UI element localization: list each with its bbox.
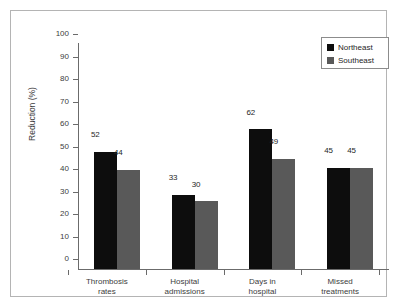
legend-swatch-southeast — [327, 57, 334, 64]
x-axis-category-label: Missed treatments — [301, 277, 379, 297]
y-axis-tick-label-text: 70 — [29, 98, 69, 106]
y-axis-tick-label-text: 10 — [29, 233, 69, 241]
legend-entry-northeast: Northeast — [327, 42, 388, 53]
y-axis-tick-label-text: 60 — [29, 120, 69, 128]
bar-0-0 — [94, 152, 117, 269]
y-axis-tick-label: 70 — [29, 98, 69, 106]
y-axis-tick-label: 30 — [29, 188, 69, 196]
bar-1-2 — [272, 159, 295, 269]
y-axis-tick-label: 50 — [29, 143, 69, 151]
legend-label: Northeast — [338, 44, 373, 52]
x-axis-tick — [301, 270, 302, 275]
x-axis-tick — [146, 270, 147, 275]
legend-entry-southeast: Southeast — [327, 55, 388, 66]
y-axis-tick-label: 90 — [29, 53, 69, 61]
y-axis-tick — [73, 34, 78, 35]
x-axis-tick — [224, 270, 225, 275]
bar-value-label: 62 — [233, 109, 268, 117]
legend-swatch-northeast — [327, 44, 334, 51]
y-axis-tick-label-text: 90 — [29, 53, 69, 61]
y-axis-tick-label-text: 80 — [29, 75, 69, 83]
y-axis-title: Reduction (%) — [27, 74, 37, 154]
y-axis-tick-label-text: 50 — [29, 143, 69, 151]
bar-0-2 — [249, 129, 272, 269]
bar-1-0 — [117, 170, 140, 269]
bar-value-label: 45 — [334, 147, 369, 155]
bar-value-label: 44 — [101, 149, 136, 157]
y-axis-tick-label: 10 — [29, 233, 69, 241]
x-axis-category-label: Days in hospital — [224, 277, 302, 297]
x-axis-category-label: Thrombosis rates — [68, 277, 146, 297]
x-axis-tick — [379, 270, 380, 275]
bar-value-label: 52 — [78, 131, 113, 139]
y-axis-tick-label: 20 — [29, 210, 69, 218]
bar-value-label: 30 — [179, 181, 214, 189]
x-axis-line — [78, 269, 389, 270]
bar-value-label: 49 — [256, 138, 291, 146]
y-axis-tick-label: 60 — [29, 120, 69, 128]
y-axis-tick-label-text: 0 — [29, 255, 69, 263]
chart-legend: NortheastSoutheast — [321, 37, 389, 69]
bar-1-1 — [195, 201, 218, 269]
y-axis-tick-label: 40 — [29, 165, 69, 173]
y-axis-tick-label-text: 20 — [29, 210, 69, 218]
chart-screenshot: Reduction (%) 1009080706050403020100 524… — [0, 0, 398, 308]
bar-1-3 — [350, 168, 373, 269]
y-axis-tick-label-text: 40 — [29, 165, 69, 173]
y-axis-tick-label: 100 — [29, 30, 69, 38]
y-axis-tick-label: 80 — [29, 75, 69, 83]
y-axis-tick-label: 0 — [29, 255, 69, 263]
bar-0-1 — [172, 195, 195, 269]
legend-label: Southeast — [338, 57, 374, 65]
x-axis-category-label: Hospital admissions — [146, 277, 224, 297]
y-axis-tick-label-text: 30 — [29, 188, 69, 196]
figure-frame: Reduction (%) 1009080706050403020100 524… — [10, 10, 387, 297]
x-axis-tick — [68, 270, 69, 275]
y-axis-tick-label-text: 100 — [29, 30, 69, 38]
bar-0-3 — [327, 168, 350, 269]
